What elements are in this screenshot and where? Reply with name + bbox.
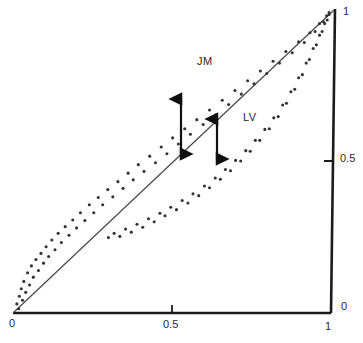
scatter-point [130,231,133,234]
scatter-point [135,223,138,226]
scatter-point [92,211,95,214]
scatter-point [277,115,280,118]
x-tick-label-0: 0 [9,317,15,329]
scatter-point [24,291,27,294]
scatter-point [17,307,20,310]
scatter-point [221,99,224,102]
scatter-point [28,283,31,286]
scatter-point [118,235,121,238]
scatter-point [239,159,242,162]
y-tick-label-1: 1 [343,5,349,17]
scatter-point [132,178,135,181]
scatter-point [268,127,271,130]
scatter-point [67,234,70,237]
scatter-point [285,102,288,105]
scatter-point [20,287,23,290]
scatter-point [71,218,74,221]
scatter-point [163,214,166,217]
scatter-point [214,113,217,116]
scatter-point [195,118,198,121]
scatter-point [246,79,249,82]
scatter-point [141,226,144,229]
scatter-point [42,262,45,265]
scatter-point [47,255,50,258]
scatter-point [315,43,318,46]
scatter-point [214,176,217,179]
scatter-point [165,152,168,155]
scatter-point [121,187,124,190]
x-tick-label-1: 1 [325,320,331,332]
y-tick-label-0: 0 [341,300,347,312]
scatter-point [37,269,40,272]
scatter-point [26,271,29,274]
scatter-point [289,90,292,93]
scatter-point [252,82,255,85]
scatter-point [147,217,150,220]
scatter-point [39,252,42,255]
scatter-point [183,127,186,130]
scatter-point [321,30,324,33]
scatter-point [64,225,67,228]
scatter-point [197,194,200,197]
scatter-point [281,104,284,107]
scatter-point [314,30,317,33]
scatter-point [181,199,184,202]
scatter-point [301,73,304,76]
scatter-point [284,50,287,53]
scatter-point [106,188,109,191]
scatter-point [254,139,257,142]
scatter-point [101,203,104,206]
scatter-point [208,186,211,189]
scatter-point [177,142,180,145]
scatter-point [229,169,232,172]
scatter-point [137,163,140,166]
gap-arrows-group [181,98,217,160]
diagonal-45-reference-line [13,10,334,313]
scatter-point [278,62,281,65]
scatter-point [79,211,82,214]
scatter-point [318,22,321,25]
scatter-point [265,72,268,75]
scatter-point [142,170,145,173]
scatter-point [227,103,230,106]
scatter-point [263,128,266,131]
scatter-point [293,88,296,91]
scatter-point [297,76,300,79]
scatter-point [107,236,110,239]
scatter-point [240,93,243,96]
scatter-point [124,228,127,231]
y-tick-label-05: 0.5 [340,152,355,164]
scatter-point [169,206,172,209]
scatter-point [127,172,130,175]
scatter-point [297,40,300,43]
scatter-point [258,139,261,142]
scatter-point [244,149,247,152]
lv-label: LV [243,111,256,123]
scatter-point [21,299,24,302]
scatter-point [60,241,63,244]
scatter-point [154,161,157,164]
scatter-point [233,89,236,92]
scatter-point [32,276,35,279]
scatter-point [75,226,78,229]
scatter-point [305,62,308,65]
scatter-point [323,22,326,25]
scatter-point [308,31,311,34]
scatter-point [15,302,18,305]
scatter-point [203,184,206,187]
scatter-point [208,108,211,111]
scatter-point [186,201,189,204]
scatter-point [83,219,86,222]
scatter-point [50,238,53,241]
scatter-point [234,159,237,162]
scatter-point [22,280,25,283]
scatter-point [224,168,227,171]
scatter-point [189,133,192,136]
scatter-point [45,245,48,248]
scatter-point [191,192,194,195]
scatter-point [326,18,329,21]
scatter-point [148,155,151,158]
scatter-point [53,248,56,251]
scatter-point [158,212,161,215]
scatter-point [34,258,37,261]
